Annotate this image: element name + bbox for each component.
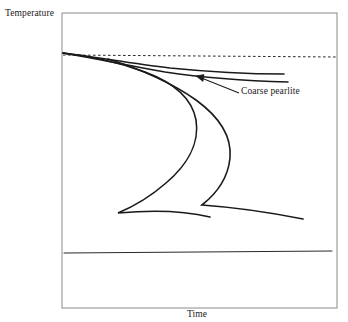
plot-canvas: [0, 0, 348, 322]
coarse-pearlite-arrow: [196, 75, 239, 94]
eutectoid-temperature-dashed-line: [63, 55, 337, 57]
ttt-diagram-figure: Temperature Time Coarse pearlite: [0, 0, 348, 322]
transformation-finish-curve: [108, 59, 303, 219]
x-axis-label: Time: [187, 309, 207, 319]
plot-frame: [62, 13, 337, 308]
y-axis-label: Temperature: [5, 8, 54, 18]
martensite-start-line: [64, 251, 332, 253]
transformation-start-curve: [63, 53, 210, 217]
coarse-pearlite-label: Coarse pearlite: [241, 86, 300, 96]
